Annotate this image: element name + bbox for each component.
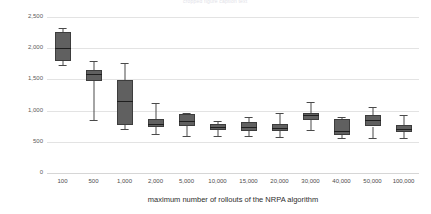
upper-whisker xyxy=(93,61,94,69)
upper-whisker-cap xyxy=(151,103,160,104)
upper-whisker xyxy=(279,113,280,124)
x-axis-tick-label: 15,000 xyxy=(239,178,257,184)
cropped-caption-text: cropped figure caption text xyxy=(183,0,247,4)
upper-whisker-cap xyxy=(306,102,315,103)
upper-whisker-cap xyxy=(120,63,129,64)
y-axis-tick-label: 500 xyxy=(11,138,43,144)
lower-whisker xyxy=(310,120,311,130)
upper-whisker-cap xyxy=(58,28,67,29)
box-plot-item xyxy=(264,17,295,173)
x-axis-title-holder: maximum number of rollouts of the NRPA a… xyxy=(47,195,419,204)
x-axis-tick-label: 1,000 xyxy=(117,178,132,184)
lower-whisker-cap xyxy=(244,136,253,137)
lower-whisker-cap xyxy=(306,130,315,131)
lower-whisker-cap xyxy=(120,129,129,130)
box-plot-item xyxy=(171,17,202,173)
y-axis-tick-label: 1,500 xyxy=(11,75,43,81)
box-plot-item xyxy=(202,17,233,173)
box-iqr xyxy=(241,122,257,131)
box-iqr xyxy=(117,80,133,125)
lower-whisker-cap xyxy=(58,65,67,66)
upper-whisker xyxy=(155,103,156,119)
median-line xyxy=(86,74,102,75)
lower-whisker-cap xyxy=(151,134,160,135)
upper-whisker-cap xyxy=(399,115,408,116)
lower-whisker-cap xyxy=(182,136,191,137)
median-line xyxy=(55,48,71,49)
box-plot-item xyxy=(140,17,171,173)
upper-whisker xyxy=(124,63,125,80)
lower-whisker-cap xyxy=(368,138,377,139)
x-axis-tick-label: 2,000 xyxy=(148,178,163,184)
upper-whisker-cap xyxy=(244,117,253,118)
x-axis-tick-label: 5,000 xyxy=(179,178,194,184)
upper-whisker-cap xyxy=(368,107,377,108)
y-axis-tick-label: 2,500 xyxy=(11,13,43,19)
box-plot-item xyxy=(109,17,140,173)
upper-whisker-cap xyxy=(89,61,98,62)
upper-whisker-cap xyxy=(337,117,346,118)
y-axis-tick-label: 2,000 xyxy=(11,44,43,50)
box-plot-item xyxy=(47,17,78,173)
median-line xyxy=(303,115,319,116)
gridline xyxy=(47,173,419,174)
median-line xyxy=(117,101,133,102)
x-axis-tick-label: 50,000 xyxy=(363,178,381,184)
median-line xyxy=(396,129,412,130)
plot-area xyxy=(47,17,419,173)
median-line xyxy=(365,120,381,121)
box-iqr xyxy=(86,70,102,81)
y-axis-tick-label: 0 xyxy=(11,169,43,175)
box-plot-item xyxy=(295,17,326,173)
x-axis-tick-label: 10,000 xyxy=(208,178,226,184)
median-line xyxy=(179,121,195,122)
x-axis-tick-label: 20,000 xyxy=(270,178,288,184)
box-iqr xyxy=(55,32,71,60)
median-line xyxy=(241,127,257,128)
box-iqr xyxy=(334,119,350,135)
median-line xyxy=(334,131,350,132)
lower-whisker xyxy=(372,127,373,139)
y-axis-tick-label: 1,000 xyxy=(11,107,43,113)
box-plot-item xyxy=(233,17,264,173)
lower-whisker-cap xyxy=(213,136,222,137)
x-axis-title: maximum number of rollouts of the NRPA a… xyxy=(148,195,318,204)
lower-whisker-cap xyxy=(275,137,284,138)
x-axis-tick-label: 100,000 xyxy=(393,178,415,184)
lower-whisker xyxy=(186,126,187,137)
box-plot-chart: cropped figure caption text total distan… xyxy=(0,0,431,214)
box-plot-item xyxy=(388,17,419,173)
upper-whisker-cap xyxy=(275,113,284,114)
upper-whisker xyxy=(372,107,373,114)
median-line xyxy=(210,127,226,128)
box-iqr xyxy=(303,113,319,120)
box-plot-item xyxy=(78,17,109,173)
lower-whisker-cap xyxy=(89,120,98,121)
upper-whisker xyxy=(310,102,311,113)
box-plot-item xyxy=(326,17,357,173)
x-axis-tick-label: 500 xyxy=(88,178,98,184)
upper-whisker-cap xyxy=(213,121,222,122)
median-line xyxy=(272,128,288,129)
x-axis-tick-label: 40,000 xyxy=(332,178,350,184)
x-axis-tick-label: 30,000 xyxy=(301,178,319,184)
cropped-caption-strip: cropped figure caption text xyxy=(0,0,431,6)
upper-whisker xyxy=(403,115,404,125)
median-line xyxy=(148,124,164,125)
box-plot-item xyxy=(357,17,388,173)
x-axis-tick-label: 100 xyxy=(57,178,67,184)
lower-whisker xyxy=(155,127,156,134)
lower-whisker-cap xyxy=(337,138,346,139)
lower-whisker-cap xyxy=(399,138,408,139)
lower-whisker xyxy=(93,81,94,120)
